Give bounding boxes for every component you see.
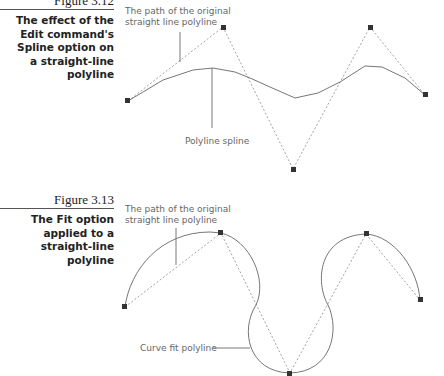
figure-3-12-diagram: The path of the original straight line p…: [124, 6, 428, 172]
vertex-marker: [368, 25, 373, 30]
original-polyline: [128, 27, 425, 169]
vertex-marker: [364, 231, 369, 236]
spline-curve: [128, 66, 425, 101]
vertex-marker: [287, 371, 292, 376]
path-label: The path of the original: [124, 204, 231, 214]
vertex-marker: [125, 98, 130, 103]
vertex-marker: [291, 167, 296, 172]
vertex-marker: [221, 25, 226, 30]
path-label: straight line polyline: [125, 215, 218, 225]
path-label: The path of the original: [124, 6, 231, 16]
vertex-marker: [418, 297, 423, 302]
vertex-marker: [218, 230, 223, 235]
vertex-marker: [423, 92, 428, 97]
figure-3-13-diagram: The path of the original straight line p…: [122, 204, 423, 376]
curve-fit-label: Curve fit polyline: [140, 343, 217, 353]
spline-label: Polyline spline: [185, 136, 250, 146]
vertex-marker: [122, 304, 127, 309]
diagram-canvas: The path of the original straight line p…: [0, 0, 444, 376]
path-label: straight line polyline: [125, 17, 218, 27]
